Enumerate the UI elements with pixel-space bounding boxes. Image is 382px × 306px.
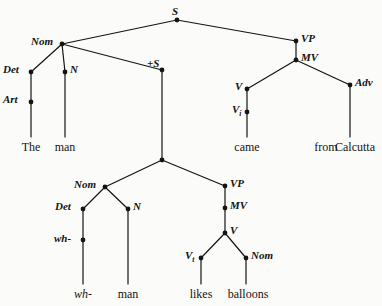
tree-edge <box>62 20 177 44</box>
node-label-art1: Art <box>3 94 18 105</box>
node-label-pluss: +S <box>147 58 159 69</box>
node-label-adv1: Adv <box>355 77 373 88</box>
node-label-vi1: Vi <box>232 104 241 118</box>
node-label-n1: N <box>70 64 78 75</box>
tree-node-dot <box>160 68 165 73</box>
tree-edge <box>177 20 296 41</box>
tree-node-dot <box>175 18 180 23</box>
tree-node-dot <box>223 231 228 236</box>
tree-node-dot <box>223 184 228 189</box>
terminal-man1: man <box>55 141 76 153</box>
tree-node-dot <box>126 207 131 212</box>
node-label-det2: Det <box>55 201 71 212</box>
tree-node-dot <box>245 87 250 92</box>
tree-node-dot <box>81 207 86 212</box>
node-label-wh1: wh- <box>54 233 71 244</box>
node-label-v1: V <box>235 81 242 92</box>
node-label-s: S <box>172 6 178 17</box>
terminal-balloons: balloons <box>228 288 269 300</box>
tree-node-dot <box>223 206 228 211</box>
node-label-nom3: Nom <box>251 250 273 261</box>
terminal-the: The <box>22 141 41 153</box>
node-label-det1: Det <box>3 64 19 75</box>
tree-edge <box>247 60 296 89</box>
tree-edge <box>31 44 62 72</box>
tree-node-dot <box>81 238 86 243</box>
tree-edge <box>162 160 225 186</box>
tree-edge <box>62 44 65 72</box>
node-label-vt1: Vt <box>185 250 194 264</box>
node-label-n2: N <box>133 201 141 212</box>
tree-node-dot <box>29 70 34 75</box>
tree-node-dot <box>294 58 299 63</box>
tree-edge <box>83 187 105 209</box>
tree-edge <box>296 60 350 85</box>
tree-node-dot <box>294 39 299 44</box>
tree-edge <box>105 160 162 187</box>
terminal-calcutta: Calcutta <box>335 141 375 153</box>
tree-node-dot <box>103 185 108 190</box>
tree-node-dot <box>348 83 353 88</box>
node-label-vp2: VP <box>230 178 244 189</box>
tree-edge <box>225 233 246 258</box>
tree-node-dot <box>244 256 249 261</box>
node-label-nom2: Nom <box>74 179 96 190</box>
terminal-whterm: wh- <box>74 288 92 300</box>
terminal-likes: likes <box>190 288 213 300</box>
terminal-man2: man <box>118 288 139 300</box>
node-label-nom1: Nom <box>31 36 53 47</box>
tree-node-dot <box>245 110 250 115</box>
node-label-mv1: MV <box>301 52 318 63</box>
tree-node-dot <box>63 70 68 75</box>
tree-node-dot <box>60 42 65 47</box>
tree-edge <box>105 187 128 209</box>
node-label-mv2: MV <box>230 200 247 211</box>
tree-node-dot <box>29 100 34 105</box>
syntax-tree-diagram: SNomVPDetN+SMVArtVAdvViNomVPDetNMVwh-VVt… <box>0 0 382 306</box>
tree-node-dot <box>160 158 165 163</box>
tree-node-dot <box>199 256 204 261</box>
terminal-came: came <box>234 141 259 153</box>
tree-edge <box>201 233 225 258</box>
node-label-vp1: VP <box>301 33 315 44</box>
node-label-v2: V <box>230 225 237 236</box>
